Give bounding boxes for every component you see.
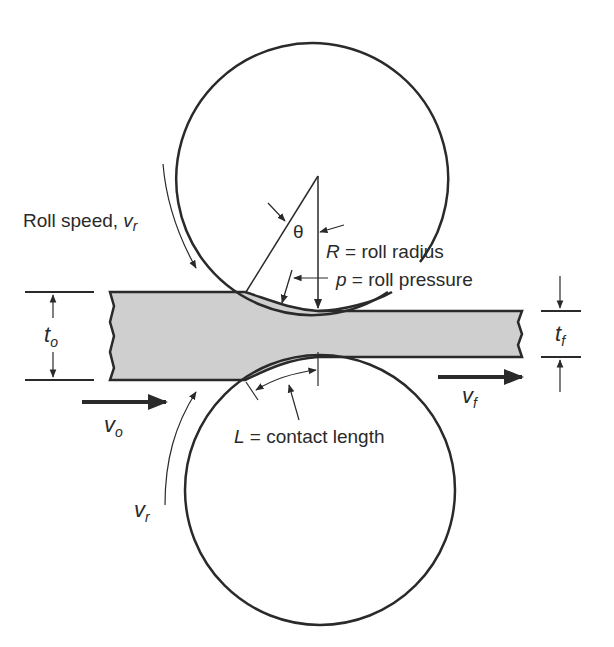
- theta-line: [246, 176, 318, 292]
- roll-radius-label: R = roll radius: [326, 241, 444, 262]
- bottom-roll: [185, 355, 455, 625]
- contact-length-label: L = contact length: [234, 426, 385, 447]
- theta-arrow-left-icon: [268, 203, 285, 221]
- contact-tick-left: [246, 382, 258, 400]
- roll-speed-top-label: Roll speed, vr: [23, 210, 139, 234]
- entry-velocity-label: vo: [104, 412, 123, 440]
- theta-arrow-right-icon: [320, 225, 344, 232]
- theta-label: θ: [293, 221, 304, 242]
- roll-speed-top-arrow-icon: [163, 164, 196, 268]
- roll-speed-bottom-label: vr: [134, 497, 151, 525]
- contact-length-arc: [256, 370, 316, 390]
- work-sheet: [110, 292, 522, 380]
- exit-velocity-label: vf: [462, 383, 479, 411]
- rolling-diagram: Roll speed, vr θ R = roll radius p = rol…: [0, 0, 614, 647]
- entry-thickness-label: to: [44, 322, 58, 350]
- exit-thickness-label: tf: [555, 321, 567, 349]
- pressure-arrow-icon: [282, 270, 292, 303]
- roll-pressure-label: p = roll pressure: [335, 269, 473, 290]
- contact-length-leader: [289, 385, 299, 420]
